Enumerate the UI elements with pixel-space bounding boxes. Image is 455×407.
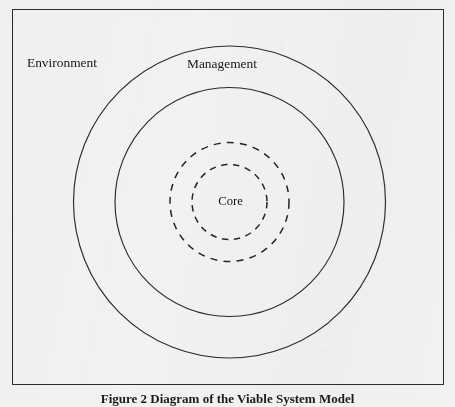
label-environment: Environment	[27, 56, 97, 69]
label-management: Management	[187, 57, 257, 70]
label-core: Core	[1, 195, 455, 208]
figure-caption: Figure 2 Diagram of the Viable System Mo…	[0, 391, 455, 407]
